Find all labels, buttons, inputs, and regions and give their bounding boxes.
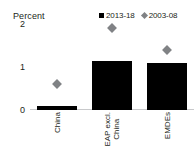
legend-item-2013-18: 2013-18 — [99, 11, 135, 20]
square-marker-icon — [99, 13, 104, 18]
series-2003-08-markers — [30, 24, 194, 110]
legend-label-2003-08: 2003-08 — [149, 11, 178, 20]
legend-label-2013-18: 2013-18 — [106, 11, 135, 20]
y-axis-tick-label: 2 — [20, 20, 25, 29]
category-label-eap-excl-china: EAP excl.China — [103, 112, 121, 147]
marker-china — [52, 79, 62, 89]
category-label-line: EMDEs — [162, 112, 171, 139]
marker-eap-excl-china — [107, 23, 117, 33]
chart-legend: 2013-18 2003-08 — [99, 11, 177, 20]
plot-area: 210 — [30, 24, 194, 110]
category-label-line: China — [53, 112, 62, 133]
y-axis-tick-label: 1 — [20, 63, 25, 72]
category-label-line: EAP excl. — [103, 112, 112, 147]
legend-item-2003-08: 2003-08 — [142, 11, 178, 20]
x-axis-category-labels: ChinaEAP excl.ChinaEMDEs — [30, 112, 194, 158]
chart-container: Percent 2013-18 2003-08 210 ChinaEAP exc… — [0, 0, 194, 158]
category-label-line: China — [112, 112, 121, 147]
category-label-china: China — [53, 112, 62, 133]
y-axis-tick-label: 0 — [20, 106, 25, 115]
marker-emdes — [162, 45, 172, 55]
category-label-emdes: EMDEs — [162, 112, 171, 139]
diamond-marker-icon — [141, 12, 148, 19]
y-axis-title: Percent — [13, 11, 45, 21]
